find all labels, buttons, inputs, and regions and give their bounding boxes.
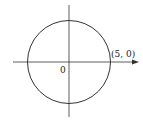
x-axis-arrow-icon	[132, 60, 139, 65]
diagram-canvas	[0, 0, 143, 123]
point-label: (5, 0)	[111, 50, 135, 59]
origin-label: 0	[60, 66, 66, 75]
